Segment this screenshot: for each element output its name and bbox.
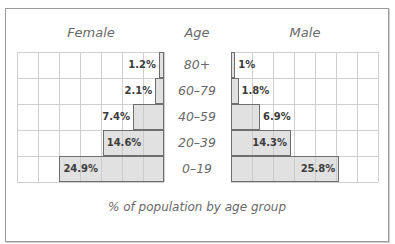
male-value-label: 25.8% [301, 156, 336, 182]
age-header: Age [184, 25, 209, 40]
female-bar [133, 104, 164, 130]
male-bar [231, 78, 239, 104]
gridline [164, 52, 165, 182]
female-bar [159, 52, 164, 78]
gridline [231, 182, 378, 183]
male-value-label: 1.8% [242, 78, 270, 104]
female-value-label: 7.4% [102, 104, 130, 130]
male-value-label: 1% [238, 52, 255, 78]
male-value-label: 6.9% [263, 104, 291, 130]
age-label: 0–19 [182, 156, 212, 182]
gridline [17, 182, 164, 183]
male-bar [231, 52, 235, 78]
age-label: 80+ [184, 52, 210, 78]
female-bar [155, 78, 164, 104]
female-value-label: 2.1% [124, 78, 152, 104]
female-header: Female [67, 25, 115, 40]
female-value-label: 14.6% [107, 130, 142, 156]
male-bar [231, 104, 260, 130]
gridline [378, 52, 379, 182]
female-value-label: 1.2% [128, 52, 156, 78]
female-value-label: 24.9% [63, 156, 98, 182]
age-label: 40–59 [178, 104, 216, 130]
gridline [17, 52, 18, 182]
chart-caption: % of population by age group [108, 200, 286, 214]
female-grid: 1.2%2.1%7.4%14.6%24.9% [17, 52, 164, 182]
male-grid: 1%1.8%6.9%14.3%25.8% [231, 52, 378, 182]
age-label: 20–39 [178, 130, 216, 156]
age-label: 60–79 [178, 78, 216, 104]
gridline [38, 52, 39, 182]
gridline [357, 52, 358, 182]
male-value-label: 14.3% [252, 130, 287, 156]
male-header: Male [290, 25, 321, 40]
